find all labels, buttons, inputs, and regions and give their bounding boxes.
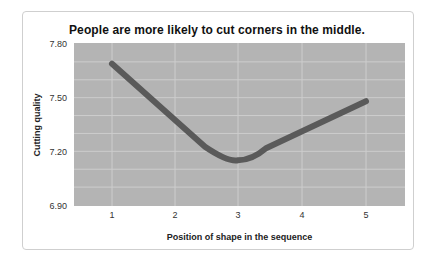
x-axis-label: Position of shape in the sequence [74, 232, 405, 242]
y-tick-label: 7.50 [49, 93, 67, 103]
x-tick-label: 4 [299, 210, 304, 220]
y-tick-label: 7.80 [49, 39, 67, 49]
x-tick-label: 3 [235, 210, 240, 220]
plot-background [74, 43, 405, 206]
x-tick-label: 1 [109, 210, 114, 220]
y-tick-label: 6.90 [49, 201, 67, 211]
x-tick-label: 2 [172, 210, 177, 220]
x-tick-label: 5 [363, 210, 368, 220]
y-tick-label: 7.20 [49, 147, 67, 157]
y-axis-label: Cutting quality [32, 94, 42, 157]
